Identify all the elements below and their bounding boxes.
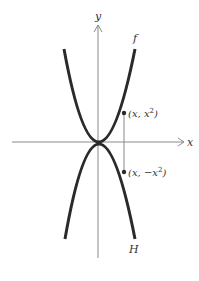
point-x-neg-x-squared-label: (x, −x2) (128, 166, 166, 178)
point-x-neg-x-squared (122, 170, 126, 174)
parabola-diagram: x y f H (x, x2) (x, −x2) (0, 0, 199, 281)
y-axis-label: y (94, 10, 102, 23)
x-axis-label: x (187, 136, 194, 149)
curve-f-label: f (132, 32, 139, 45)
curve-h-label: H (128, 243, 139, 256)
point-x-x-squared (122, 111, 126, 115)
point-x-x-squared-label: (x, x2) (128, 107, 158, 119)
